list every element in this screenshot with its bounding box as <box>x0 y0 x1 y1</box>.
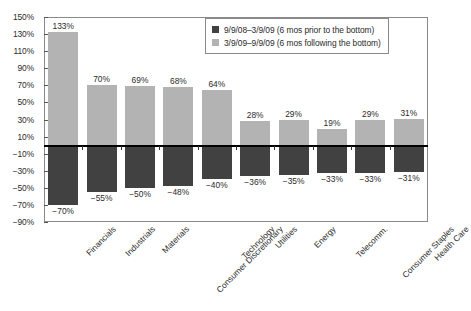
y-axis-tick-label: 30% <box>18 115 34 125</box>
legend-swatch-dark-icon <box>212 26 219 33</box>
bar-positive[interactable] <box>125 86 155 145</box>
bar-value-label: −70% <box>33 206 93 216</box>
y-axis-tick-label: 150% <box>13 12 34 22</box>
x-axis-tick-mark <box>198 146 199 150</box>
y-axis-tick-label: −30% <box>13 166 34 176</box>
x-axis-tick-mark <box>274 146 275 150</box>
y-axis-tick-mark <box>44 68 48 69</box>
y-axis-tick-mark <box>44 85 48 86</box>
bar-group: 133%−70% <box>48 17 78 222</box>
x-axis-category-label: Consumer Discretionary <box>215 224 286 295</box>
bar-negative[interactable] <box>240 145 270 176</box>
x-axis-tick-mark <box>236 146 237 150</box>
chart-legend: 9/9/08–3/9/09 (6 mos prior to the bottom… <box>205 18 389 54</box>
x-axis-category-label: Telecomm. <box>354 224 390 260</box>
y-axis-tick-label: 70% <box>18 80 34 90</box>
legend-label-prior: 9/9/08–3/9/09 (6 mos prior to the bottom… <box>224 25 374 35</box>
y-axis-tick-mark <box>44 171 48 172</box>
bar-positive[interactable] <box>394 119 424 145</box>
y-axis-tick-mark <box>44 34 48 35</box>
bar-positive[interactable] <box>355 120 385 145</box>
y-axis-tick-mark <box>44 154 48 155</box>
x-axis-tick-mark <box>313 146 314 150</box>
bar-negative[interactable] <box>125 145 155 188</box>
y-axis-tick-label: −70% <box>13 200 34 210</box>
legend-item-following[interactable]: 3/9/09–9/9/09 (6 mos following the botto… <box>212 36 381 49</box>
y-axis-tick-mark <box>44 17 48 18</box>
bar-positive[interactable] <box>163 87 193 145</box>
x-axis-category-label: Financials <box>84 224 118 258</box>
x-axis-tick-mark <box>351 146 352 150</box>
legend-swatch-light-icon <box>212 39 219 46</box>
x-axis-tick-mark <box>82 146 83 150</box>
bar-value-label: 64% <box>187 79 247 89</box>
bar-negative[interactable] <box>202 145 232 179</box>
bar-positive[interactable] <box>48 32 78 146</box>
x-axis-category-label: Industrials <box>123 224 157 258</box>
x-axis-category-label: Materials <box>160 224 191 255</box>
bar-negative[interactable] <box>87 145 117 192</box>
bar-negative[interactable] <box>394 145 424 171</box>
bar-negative[interactable] <box>317 145 347 173</box>
x-axis-tick-mark <box>159 146 160 150</box>
y-axis-tick-mark <box>44 137 48 138</box>
legend-label-following: 3/9/09–9/9/09 (6 mos following the botto… <box>224 38 381 48</box>
bar-group: 31%−31% <box>394 17 424 222</box>
x-axis-category-label: Energy <box>311 224 337 250</box>
bar-positive[interactable] <box>317 129 347 145</box>
bar-negative[interactable] <box>355 145 385 173</box>
x-axis-category-labels: FinancialsIndustrialsMaterialsConsumer D… <box>44 224 428 311</box>
bar-value-label: 133% <box>33 21 93 31</box>
bar-group: 68%−48% <box>163 17 193 222</box>
bar-negative[interactable] <box>279 145 309 175</box>
y-axis-tick-label: 50% <box>18 97 34 107</box>
y-axis-tick-mark <box>44 102 48 103</box>
y-axis-tick-mark <box>44 120 48 121</box>
legend-item-prior[interactable]: 9/9/08–3/9/09 (6 mos prior to the bottom… <box>212 23 381 36</box>
y-axis-tick-label: 110% <box>14 46 34 56</box>
x-axis-tick-mark <box>121 146 122 150</box>
y-axis-tick-mark <box>44 51 48 52</box>
y-axis-tick-label: −10% <box>13 149 34 159</box>
y-axis-tick-mark <box>44 188 48 189</box>
y-axis-tick-mark <box>44 205 48 206</box>
x-axis-tick-mark <box>390 146 391 150</box>
bar-positive[interactable] <box>87 85 117 145</box>
y-axis-tick-mark <box>44 222 48 223</box>
bar-value-label: 31% <box>379 108 439 118</box>
bar-positive[interactable] <box>240 121 270 145</box>
y-axis-tick-label: 10% <box>18 132 34 142</box>
bar-value-label: 19% <box>302 118 362 128</box>
y-axis-tick-label: −50% <box>13 183 34 193</box>
y-axis-tick-label: 90% <box>18 63 34 73</box>
y-axis-tick-label: 130% <box>13 29 34 39</box>
y-axis-tick-label: −90% <box>13 217 34 227</box>
y-axis: 150%130%110%90%70%50%30%10%−10%−30%−50%−… <box>0 17 40 222</box>
bar-value-label: −31% <box>379 173 439 183</box>
